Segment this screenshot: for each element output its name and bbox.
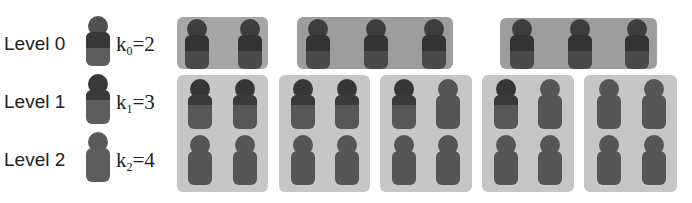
- person-icon-level-1: [392, 79, 416, 135]
- person-icon-level-0: [568, 19, 592, 75]
- person-icon-level-2: [291, 135, 315, 191]
- person-icon-level-2: [392, 135, 416, 191]
- person-icon-level-0: [364, 19, 388, 75]
- person-icon-level-0: [422, 19, 446, 75]
- k2-formula: k2=4: [116, 148, 155, 175]
- legend-level-1: Level 1 k1=3: [0, 72, 175, 132]
- legend-label: Level 0: [4, 33, 65, 55]
- person-icon-level-2: [86, 132, 110, 188]
- person-icon-level-1: [188, 79, 212, 135]
- k1-formula: k1=3: [116, 90, 155, 117]
- person-icon-level-2: [538, 79, 562, 135]
- person-icon-level-2: [436, 135, 460, 191]
- person-icon-level-2: [494, 135, 518, 191]
- person-icon-level-2: [233, 135, 257, 191]
- person-icon-level-0: [625, 19, 649, 75]
- person-icon-level-0: [238, 19, 262, 75]
- legend-label: Level 2: [4, 149, 65, 171]
- person-icon-level-0: [185, 19, 209, 75]
- legend-level-2: Level 2 k2=4: [0, 130, 175, 190]
- person-icon-level-2: [597, 135, 621, 191]
- person-icon-level-2: [538, 135, 562, 191]
- person-icon-level-1: [335, 79, 359, 135]
- person-icon-level-1: [494, 79, 518, 135]
- person-icon-level-1: [233, 79, 257, 135]
- person-icon-level-1: [86, 74, 110, 130]
- person-icon-level-1: [291, 79, 315, 135]
- legend-label: Level 1: [4, 91, 65, 113]
- legend-level-0: Level 0 k0=2: [0, 12, 175, 72]
- person-icon-level-0: [86, 16, 110, 72]
- person-icon-level-0: [306, 19, 330, 75]
- person-icon-level-2: [642, 79, 666, 135]
- person-icon-level-2: [335, 135, 359, 191]
- person-icon-level-2: [188, 135, 212, 191]
- person-icon-level-2: [597, 79, 621, 135]
- person-icon-level-2: [436, 79, 460, 135]
- person-icon-level-2: [642, 135, 666, 191]
- k0-formula: k0=2: [116, 32, 155, 59]
- person-icon-level-0: [510, 19, 534, 75]
